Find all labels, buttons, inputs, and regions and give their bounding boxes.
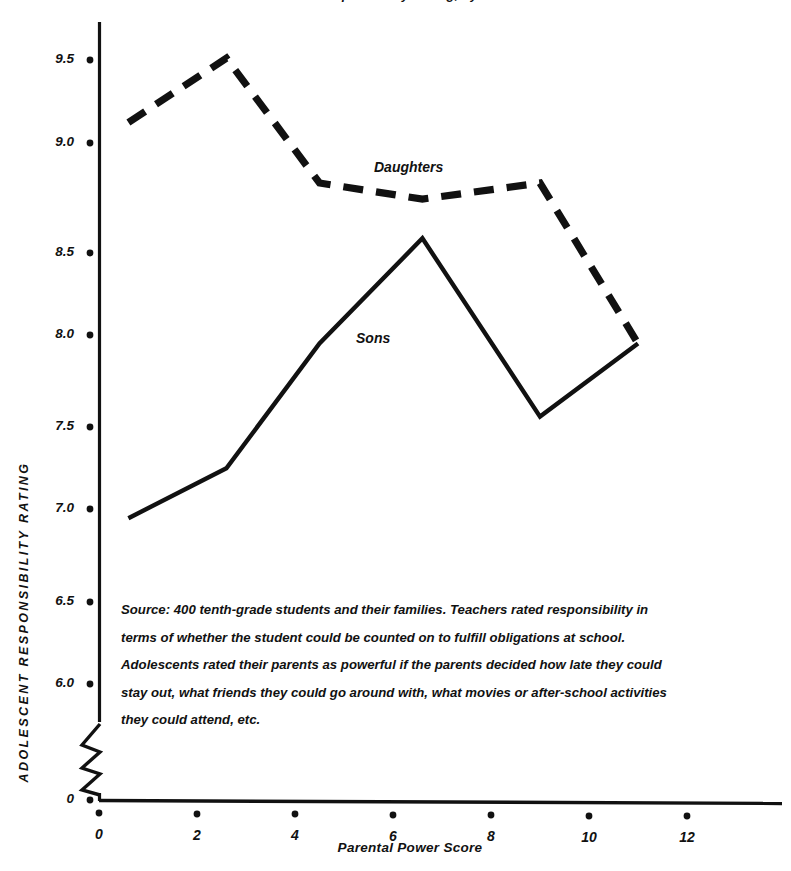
x-tick-label-2: 2	[182, 827, 212, 843]
y-tick-label-8-0: 8.0	[28, 326, 74, 341]
plot-canvas	[0, 0, 791, 871]
series-label-daughters: Daughters	[374, 159, 443, 175]
source-note: Source: 400 tenth-grade students and the…	[121, 596, 677, 734]
series-line-sons	[128, 238, 638, 518]
y-tick-label-7-0: 7.0	[28, 500, 74, 515]
y-axis-title: ADOLESCENT RESPONSIBILITY RATING	[17, 442, 31, 802]
x-tick-label-0: 0	[84, 826, 114, 842]
y-tick-label-6-5: 6.5	[28, 593, 74, 608]
y-tick-label-7-5: 7.5	[28, 418, 74, 433]
y-tick-label-9-5: 9.5	[28, 51, 74, 66]
y-tick-label-8-5: 8.5	[28, 244, 74, 259]
y-tick-marks	[87, 57, 94, 804]
axis-break-zigzag	[82, 724, 100, 795]
x-tick-label-10: 10	[574, 829, 604, 845]
x-tick-label-12: 12	[672, 829, 702, 845]
series-label-sons: Sons	[356, 330, 390, 346]
x-axis-line	[99, 801, 782, 804]
series-line-daughters	[128, 58, 638, 343]
y-tick-label-6-0: 6.0	[28, 675, 74, 690]
x-tick-marks	[96, 810, 691, 820]
y-tick-label-9-0: 9.0	[28, 134, 74, 149]
x-axis-title: Parental Power Score	[280, 840, 540, 855]
chart-figure: Adolescent Responsibility Rating, by Par…	[0, 0, 791, 871]
y-tick-label-origin: 0	[28, 791, 74, 806]
